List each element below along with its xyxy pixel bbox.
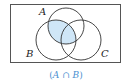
label-c: C [101,48,109,59]
caption: (A ∩ B) [49,70,82,80]
label-b: B [25,48,33,59]
label-a: A [38,6,46,17]
caption-intersection-symbol: ∩ [59,70,72,80]
venn-diagram: A B C (A ∩ B) [0,0,124,83]
caption-close-paren: ) [79,70,83,80]
